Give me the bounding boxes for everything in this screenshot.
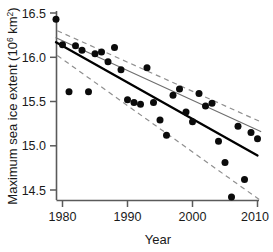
data-point <box>150 99 157 106</box>
data-point <box>118 66 125 73</box>
data-point <box>254 135 261 142</box>
data-point <box>202 102 209 109</box>
data-point <box>92 50 99 57</box>
y-axis-title-main: Maximum sea ice extent (10 <box>5 42 20 205</box>
x-axis-title: Year <box>145 232 172 247</box>
chart-figure: 16.5 16.0 15.5 15.0 14.5 1980 1990 2000 … <box>0 0 273 252</box>
data-point <box>241 176 248 183</box>
data-point <box>163 132 170 139</box>
data-point <box>85 88 92 95</box>
y-tick-label-16.5: 16.5 <box>22 7 46 21</box>
x-tick-label-2000: 2000 <box>179 210 207 224</box>
svg-text:Maximum sea ice extent (106 km: Maximum sea ice extent (106 km2) <box>5 7 20 204</box>
data-point <box>209 100 216 107</box>
data-point <box>111 44 118 51</box>
data-point <box>222 159 229 166</box>
y-tick-label-15.0: 15.0 <box>22 139 46 153</box>
data-point <box>248 129 255 136</box>
y-axis-ticks <box>50 13 57 190</box>
data-point <box>189 118 196 125</box>
x-tick-label-1980: 1980 <box>49 210 77 224</box>
data-point <box>157 117 164 124</box>
data-point <box>131 99 138 106</box>
x-tick-label-2010: 2010 <box>241 210 269 224</box>
data-point <box>79 47 86 54</box>
y-axis-title-unit: km <box>5 16 20 37</box>
data-point <box>72 42 79 49</box>
data-point <box>144 64 151 71</box>
regression-line <box>56 42 258 155</box>
y-axis-title: Maximum sea ice extent (106 km2) <box>5 7 20 204</box>
confidence-band-line <box>57 55 260 200</box>
data-point <box>228 194 235 201</box>
data-point <box>105 58 112 65</box>
data-point <box>98 48 105 55</box>
data-point <box>137 101 144 108</box>
y-tick-label-16.0: 16.0 <box>22 51 46 65</box>
x-axis-ticks <box>63 201 258 208</box>
y-axis-title-close-paren: ) <box>5 7 20 11</box>
data-point <box>176 86 183 93</box>
y-axis-tick-labels: 16.5 16.0 15.5 15.0 14.5 <box>22 7 46 198</box>
confidence-band-line <box>57 31 260 122</box>
y-tick-label-14.5: 14.5 <box>22 184 46 198</box>
data-point <box>196 90 203 97</box>
data-point <box>124 96 131 103</box>
x-axis-tick-labels: 1980 1990 2000 2010 <box>49 210 269 224</box>
trend-lines-layer <box>56 31 261 201</box>
scatter-plot-svg: 16.5 16.0 15.5 15.0 14.5 1980 1990 2000 … <box>0 0 273 252</box>
data-point <box>53 16 60 23</box>
y-tick-label-15.5: 15.5 <box>22 95 46 109</box>
data-point <box>183 109 190 116</box>
data-point <box>215 138 222 145</box>
data-point <box>235 123 242 130</box>
data-point <box>170 92 177 99</box>
data-point <box>66 88 73 95</box>
x-tick-label-1990: 1990 <box>114 210 142 224</box>
data-point <box>59 41 66 48</box>
